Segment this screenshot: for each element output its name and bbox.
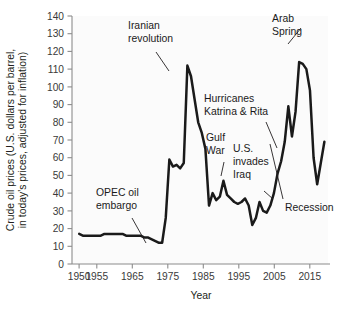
y-tick-label-50: 50 <box>53 170 65 181</box>
annotation-us-invades-iraq-line3: Iraq <box>233 169 251 180</box>
x-tick-label-1975: 1975 <box>156 271 179 282</box>
x-tick-label-1995: 1995 <box>227 271 250 282</box>
chart-figure: 0 10 20 30 40 50 60 70 80 90 100 110 120… <box>0 0 347 314</box>
y-tick-label-0: 0 <box>58 259 64 270</box>
y-tick-label-60: 60 <box>53 152 65 163</box>
plot-background <box>72 16 328 264</box>
annotation-hurricanes-line1: Hurricanes <box>204 93 254 104</box>
y-tick-label-90: 90 <box>53 99 65 110</box>
y-tick-label-40: 40 <box>53 188 65 199</box>
x-tick-label-1965: 1965 <box>121 271 144 282</box>
y-tick-label-70: 70 <box>53 135 65 146</box>
annotation-arab-spring-line1: Arab <box>272 13 294 24</box>
x-tick-label-2005: 2005 <box>263 271 286 282</box>
x-axis-tick-labels: 1950 1955 1965 1975 1985 1995 2005 2015 <box>68 271 322 282</box>
annotation-gulf-war-line2: War <box>206 145 225 156</box>
y-axis-title-line1: Crude oil prices (U.S. dollars per barre… <box>5 49 16 231</box>
annotation-iranian-revolution-line2: revolution <box>128 33 173 44</box>
annotation-iranian-revolution-line1: Iranian <box>128 20 160 31</box>
x-axis-ticks <box>79 264 310 269</box>
x-tick-label-1955: 1955 <box>85 271 108 282</box>
y-axis-ticks <box>68 16 73 264</box>
y-tick-label-10: 10 <box>53 241 65 252</box>
y-tick-label-120: 120 <box>47 46 64 57</box>
y-tick-label-100: 100 <box>47 82 64 93</box>
x-tick-label-2015: 2015 <box>298 271 321 282</box>
y-tick-label-140: 140 <box>47 11 64 22</box>
y-axis-title-line2: in today's prices, adjusted for inflatio… <box>17 52 28 228</box>
x-tick-label-1985: 1985 <box>192 271 215 282</box>
annotation-gulf-war-line1: Gulf <box>206 132 225 143</box>
y-tick-label-130: 130 <box>47 28 64 39</box>
y-axis-tick-labels: 0 10 20 30 40 50 60 70 80 90 100 110 120… <box>47 11 64 270</box>
y-tick-label-110: 110 <box>48 64 65 75</box>
annotation-opec-embargo-line1: OPEC oil <box>96 187 139 198</box>
annotation-opec-embargo-line2: embargo <box>96 200 137 211</box>
annotation-arab-spring-line2: Spring <box>272 26 302 37</box>
annotation-hurricanes-line2: Katrina & Rita <box>204 106 268 117</box>
annotation-us-invades-iraq-line2: invades <box>233 156 269 167</box>
oil-price-line-chart: 0 10 20 30 40 50 60 70 80 90 100 110 120… <box>0 0 347 314</box>
annotation-recession: Recession <box>285 202 334 213</box>
y-tick-label-20: 20 <box>53 223 65 234</box>
x-axis-title: Year <box>191 290 213 301</box>
annotation-us-invades-iraq-line1: U.S. <box>233 143 253 154</box>
y-tick-label-80: 80 <box>53 117 65 128</box>
y-tick-label-30: 30 <box>53 206 65 217</box>
